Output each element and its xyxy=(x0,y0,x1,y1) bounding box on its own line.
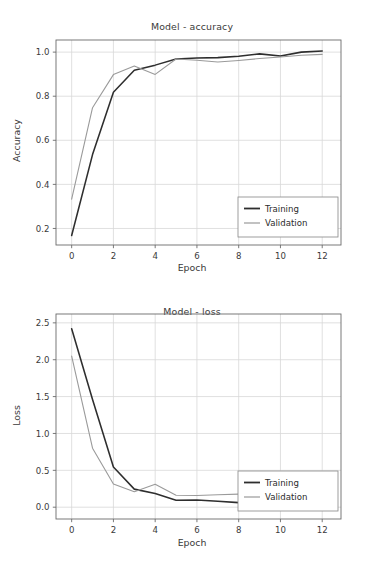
loss-yaxis-label: Loss xyxy=(11,386,22,446)
xaxis-tick-label: 4 xyxy=(152,525,157,535)
yaxis-tick-label: 1.0 xyxy=(36,429,50,439)
accuracy-yaxis-label: Accuracy xyxy=(11,111,22,171)
xaxis-tick-label: 2 xyxy=(111,251,116,261)
accuracy-plot-area: 0246810120.20.40.60.81.0TrainingValidati… xyxy=(0,0,384,285)
xaxis-tick-label: 2 xyxy=(111,525,116,535)
legend-label-validation: Validation xyxy=(265,492,307,502)
yaxis-tick-label: 0.8 xyxy=(36,91,50,101)
xaxis-tick-label: 6 xyxy=(194,525,199,535)
xaxis-tick-label: 12 xyxy=(317,525,328,535)
xaxis-tick-label: 8 xyxy=(236,251,241,261)
loss-xaxis-label: Epoch xyxy=(0,537,384,548)
xaxis-tick-label: 8 xyxy=(236,525,241,535)
legend-label-training: Training xyxy=(264,478,299,488)
yaxis-tick-label: 0.0 xyxy=(36,502,50,512)
xaxis-tick-label: 4 xyxy=(152,251,157,261)
xaxis-tick-label: 10 xyxy=(275,251,286,261)
xaxis-tick-label: 12 xyxy=(317,251,328,261)
yaxis-tick-label: 2.5 xyxy=(36,318,50,328)
loss-plot-area: 0246810120.00.51.01.52.02.5TrainingValid… xyxy=(0,285,384,570)
xaxis-tick-label: 10 xyxy=(275,525,286,535)
yaxis-tick-label: 1.5 xyxy=(36,392,50,402)
series-line-validation xyxy=(72,356,260,498)
yaxis-tick-label: 0.5 xyxy=(36,466,50,476)
accuracy-chart-panel: Model - accuracy 0246810120.20.40.60.81.… xyxy=(0,0,384,285)
yaxis-tick-label: 2.0 xyxy=(36,355,50,365)
yaxis-tick-label: 0.4 xyxy=(36,180,50,190)
accuracy-xaxis-label: Epoch xyxy=(0,262,384,273)
xaxis-tick-label: 0 xyxy=(69,525,74,535)
loss-chart-panel: Model - loss 0246810120.00.51.01.52.02.5… xyxy=(0,285,384,570)
xaxis-tick-label: 6 xyxy=(194,251,199,261)
yaxis-tick-label: 0.6 xyxy=(36,135,50,145)
series-line-training xyxy=(72,329,260,505)
xaxis-tick-label: 0 xyxy=(69,251,74,261)
legend-label-training: Training xyxy=(264,204,299,214)
figure-page: Model - accuracy 0246810120.20.40.60.81.… xyxy=(0,0,384,570)
yaxis-tick-label: 0.2 xyxy=(36,224,50,234)
yaxis-tick-label: 1.0 xyxy=(36,47,50,57)
legend-label-validation: Validation xyxy=(265,218,307,228)
